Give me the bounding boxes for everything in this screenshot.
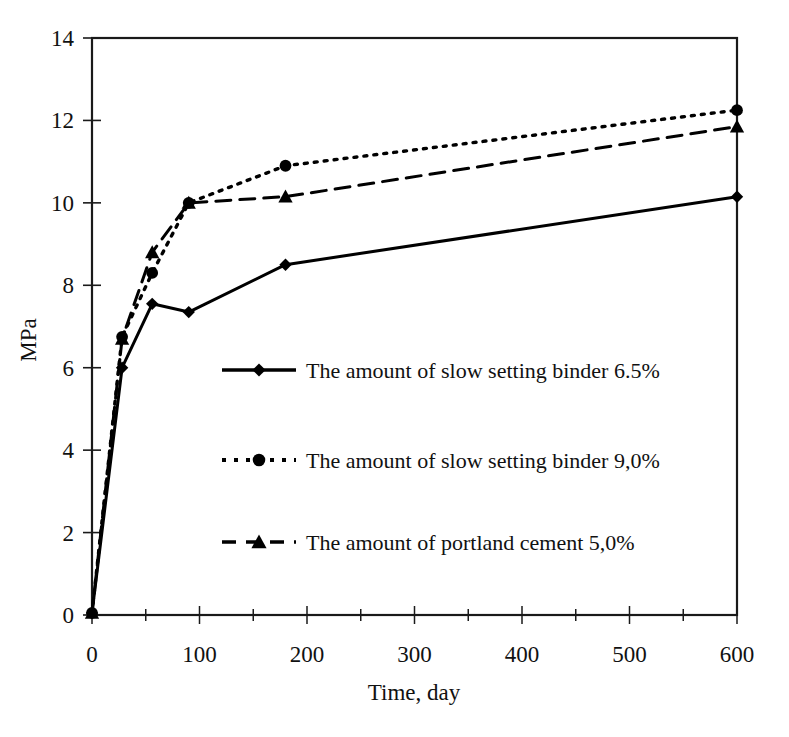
x-tick-label: 600 (720, 642, 755, 667)
x-tick-label: 200 (290, 642, 325, 667)
legend-label: The amount of slow setting binder 9,0% (306, 448, 660, 473)
legend-label: The amount of portland cement 5,0% (306, 530, 635, 555)
x-axis-tick-labels: 0100200300400500600 (86, 642, 754, 667)
data-point-circle (731, 104, 743, 116)
y-tick-label: 8 (63, 273, 75, 298)
plot-frame (92, 38, 737, 615)
y-tick-label: 2 (63, 521, 75, 546)
y-tick-label: 0 (63, 603, 75, 628)
x-tick-label: 300 (397, 642, 432, 667)
data-point-circle (146, 267, 158, 279)
y-tick-label: 14 (51, 26, 75, 51)
data-point-circle (253, 454, 266, 467)
data-point-circle (280, 160, 292, 172)
y-axis-title: MPa (16, 318, 41, 361)
y-tick-label: 12 (51, 108, 74, 133)
y-axis-tick-labels: 02468101214 (51, 26, 75, 628)
chart-figure: 02468101214 0100200300400500600 The amou… (0, 0, 789, 737)
y-tick-label: 10 (51, 191, 74, 216)
x-tick-label: 100 (182, 642, 217, 667)
line-chart-canvas: 02468101214 0100200300400500600 The amou… (0, 0, 789, 737)
y-tick-label: 6 (63, 356, 75, 381)
x-axis-title: Time, day (368, 680, 461, 705)
x-tick-label: 0 (86, 642, 98, 667)
legend-label: The amount of slow setting binder 6.5% (306, 358, 660, 383)
y-tick-label: 4 (63, 438, 75, 463)
x-tick-label: 500 (612, 642, 647, 667)
x-tick-label: 400 (505, 642, 540, 667)
